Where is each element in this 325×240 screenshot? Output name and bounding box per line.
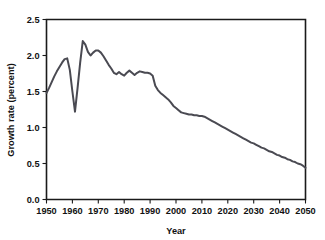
y-tick-label-1.5: 1.5 [27, 87, 40, 97]
y-tick-label-2.5: 2.5 [27, 15, 40, 25]
x-tick-label-2030: 2030 [243, 206, 263, 216]
x-tick-label-2050: 2050 [295, 206, 315, 216]
x-tick-label-2010: 2010 [192, 206, 212, 216]
y-tick-label-1.0: 1.0 [27, 123, 40, 133]
y-tick-label-2.0: 2.0 [27, 51, 40, 61]
chart-figure: 0.00.51.01.52.02.5 195019601970198019902… [0, 0, 325, 240]
x-tick-label-1990: 1990 [140, 206, 160, 216]
y-tick-label-0.0: 0.0 [27, 195, 40, 205]
x-axis-title: Year [166, 226, 186, 236]
x-axis-tick-labels: 1950196019701980199020002010202020302040… [36, 206, 315, 216]
y-axis-title: Growth rate (percent) [6, 63, 16, 156]
y-tick-label-0.5: 0.5 [27, 159, 40, 169]
x-tick-label-1980: 1980 [114, 206, 134, 216]
growth-rate-line-chart: 0.00.51.01.52.02.5 195019601970198019902… [0, 0, 325, 240]
chart-background [0, 0, 325, 240]
x-tick-label-1970: 1970 [88, 206, 108, 216]
x-tick-label-2000: 2000 [166, 206, 186, 216]
x-tick-label-2040: 2040 [269, 206, 289, 216]
x-tick-label-1950: 1950 [36, 206, 56, 216]
x-tick-label-2020: 2020 [218, 206, 238, 216]
x-tick-label-1960: 1960 [62, 206, 82, 216]
